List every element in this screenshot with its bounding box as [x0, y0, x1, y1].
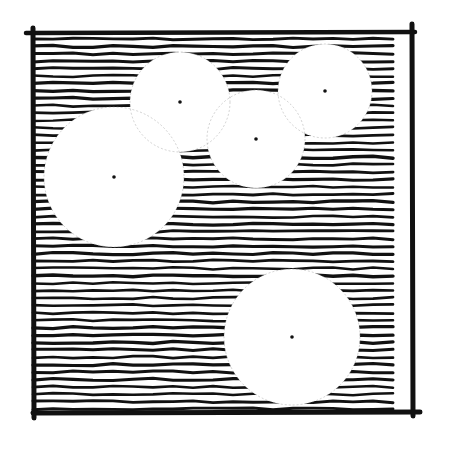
circle-top-right-center-dot [323, 89, 327, 93]
hatch-line [33, 408, 393, 410]
hatch-line [33, 386, 393, 388]
hatch-line [33, 275, 393, 277]
hatch-line [33, 267, 393, 269]
hatch-line [33, 38, 393, 40]
frame-left-edge [33, 28, 34, 418]
circle-center-center-dot [254, 137, 258, 141]
circle-left-large-center-dot [112, 175, 116, 179]
circle-bottom-center-dot [290, 335, 294, 339]
frame-right-edge [412, 24, 413, 416]
hatch-line [33, 393, 393, 395]
circle-top-middle-center-dot [178, 100, 182, 104]
hatch-line [33, 282, 393, 284]
hatch-line [33, 245, 393, 247]
frame-bottom-edge [33, 412, 420, 413]
frame-top-edge [26, 32, 415, 33]
hatch-line [33, 253, 393, 255]
hatch-line [33, 401, 393, 403]
hatch-line [33, 260, 393, 262]
hatched-circles-illustration [0, 0, 458, 449]
